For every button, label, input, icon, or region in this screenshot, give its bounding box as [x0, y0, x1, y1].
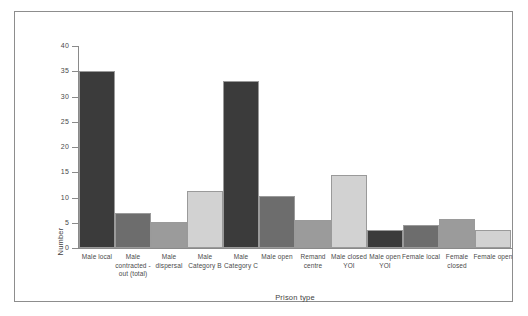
y-axis-tick	[72, 198, 78, 199]
bar-series	[79, 46, 511, 248]
bar	[331, 175, 367, 248]
x-axis-line	[78, 248, 512, 249]
y-axis-tick	[72, 223, 78, 224]
x-axis-tick-label: Female open	[472, 253, 514, 262]
bar	[259, 196, 295, 248]
bar	[403, 225, 439, 248]
y-axis-tick	[72, 147, 78, 148]
y-axis-title: Number	[56, 212, 65, 272]
bar	[187, 191, 223, 248]
bar	[367, 230, 403, 248]
y-axis-tick	[72, 46, 78, 47]
bar	[79, 71, 115, 248]
y-axis-tick	[72, 122, 78, 123]
y-axis-tick-label: 35	[45, 67, 69, 74]
figure-frame: 0510152025303540 Number Male localMale c…	[14, 11, 513, 302]
bar	[151, 222, 187, 248]
figure-canvas: 0510152025303540 Number Male localMale c…	[0, 0, 528, 316]
y-axis-tick-label: 40	[45, 42, 69, 49]
y-axis-tick	[72, 248, 78, 249]
y-axis-tick	[72, 97, 78, 98]
y-axis-title-wrap: Number	[33, 117, 53, 187]
bar	[475, 230, 511, 248]
bar	[439, 219, 475, 248]
bar	[223, 81, 259, 248]
bar	[115, 213, 151, 248]
y-axis-tick-label: 30	[45, 93, 69, 100]
y-axis-tick	[72, 172, 78, 173]
y-axis-tick-label: 10	[45, 194, 69, 201]
bar	[295, 220, 331, 248]
x-axis-title: Prison type	[79, 293, 511, 302]
y-axis-tick	[72, 71, 78, 72]
